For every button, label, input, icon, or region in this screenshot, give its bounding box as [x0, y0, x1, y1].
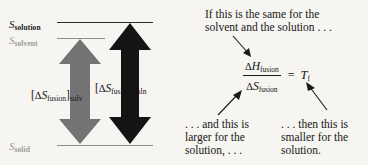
fusion-subscript-solv: fusion	[47, 94, 66, 103]
annotation-bottom-right-line2: smaller for the	[281, 131, 348, 145]
annotation-bottom-left-line2: larger for the	[185, 131, 245, 145]
phase-subscript-soln: soln	[134, 87, 147, 96]
numerator-subscript: fusion	[260, 65, 279, 74]
level-subscript-solvent: solvent	[15, 39, 38, 48]
fusion-subscript-soln: fusion	[111, 87, 130, 96]
annotation-top-line2: solvent and the solution . . .	[205, 21, 332, 35]
annotation-bottom-right-line1: . . . then this is	[281, 118, 348, 132]
pointer-arrow-bottom-right	[303, 79, 333, 113]
annotation-bottom-left-line1: . . . and this is	[185, 118, 249, 132]
denominator-subscript: fusion	[259, 85, 278, 94]
equation-numerator: ΔHfusion	[243, 57, 281, 74]
numerator-delta: Δ	[245, 61, 252, 72]
phase-subscript-solv: solv	[70, 94, 83, 103]
annotation-bottom-right-line3: solution.	[281, 144, 321, 158]
entropy-fusion-figure: Ssolution Ssolvent Ssolid [ΔSfusion]solv…	[0, 0, 368, 165]
level-label-solvent: Ssolvent	[9, 31, 38, 48]
numerator-symbol: H	[252, 60, 260, 72]
arrow-label-solution-fusion: [ΔSfusion]soln	[95, 79, 146, 96]
annotation-bottom-left-line3: solution, . . .	[185, 144, 242, 158]
annotation-top-line1: If this is the same for the	[205, 8, 319, 22]
level-subscript-solid: solid	[15, 145, 31, 154]
equals-sign: =	[288, 68, 295, 83]
delta-symbol-soln: Δ	[99, 83, 106, 94]
fusion-equation: ΔHfusion ΔSfusion = Tf	[243, 57, 310, 94]
equation-fraction: ΔHfusion ΔSfusion	[243, 57, 281, 94]
level-label-solid: Ssolid	[9, 137, 30, 154]
pointer-arrow-bottom-left	[215, 88, 247, 118]
delta-symbol-solv: Δ	[35, 90, 42, 101]
level-label-solution: Ssolution	[9, 15, 41, 32]
fraction-bar	[243, 75, 281, 76]
equation-denominator: ΔSfusion	[244, 77, 279, 94]
arrow-label-solvent-fusion: [ΔSfusion]solv	[31, 86, 82, 103]
